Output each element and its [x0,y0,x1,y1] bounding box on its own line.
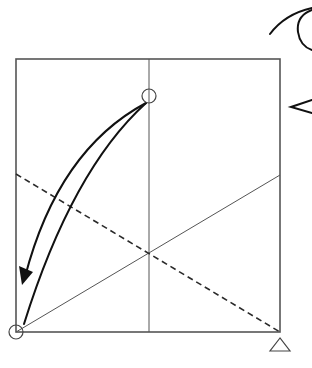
view-direction-chevron-icon [291,100,312,113]
fold-arrow [19,103,146,324]
reference-triangle-icon [270,338,290,351]
origami-fold-diagram [0,0,312,368]
arrowhead-icon [19,266,33,285]
turn-over-symbol-icon [270,8,312,50]
